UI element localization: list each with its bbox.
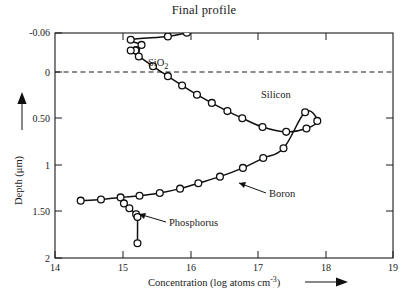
data-point	[98, 196, 105, 203]
y-tick-label-1: 0	[45, 67, 50, 78]
data-point	[239, 115, 246, 122]
data-point	[136, 192, 143, 199]
data-point	[194, 91, 201, 98]
svg-text:Concentration (log atoms cm-3): Concentration (log atoms cm-3)	[148, 275, 281, 289]
data-point	[134, 240, 141, 247]
data-point	[77, 197, 84, 204]
data-point	[127, 36, 134, 43]
data-point	[240, 164, 247, 171]
data-point	[127, 47, 134, 54]
data-point	[302, 109, 309, 116]
data-point	[156, 190, 163, 197]
x-tick-label-4: 18	[321, 262, 331, 273]
data-point	[177, 185, 184, 192]
x-axis-ticks-top	[123, 33, 326, 40]
data-point	[259, 124, 266, 131]
annotation-phosphorus: Phosphorus	[169, 217, 218, 228]
y-tick-label-3: 1	[45, 160, 50, 171]
data-point	[280, 145, 287, 152]
data-point	[164, 73, 171, 80]
series-line-1	[81, 50, 318, 200]
y-tick-label-2: 0.50	[33, 113, 51, 124]
y-axis-ticks-right	[386, 118, 393, 211]
data-point	[283, 128, 290, 135]
plot-frame	[55, 33, 393, 258]
y-axis-ticks	[55, 33, 62, 258]
x-tick-label-3: 17	[253, 262, 263, 273]
svg-text:Depth (μm): Depth (μm)	[13, 155, 25, 205]
y-axis-title: Depth (μm)	[13, 92, 27, 205]
data-point	[179, 82, 186, 89]
annotation-boron: Boron	[269, 188, 296, 199]
y-tick-label-4: 1.50	[33, 206, 51, 217]
data-point	[126, 205, 133, 212]
data-point	[195, 180, 202, 187]
x-tick-label-1: 15	[118, 262, 128, 273]
chart-figure: Final profile -0.06 0 0.50 1 1.50 2	[0, 0, 408, 296]
data-point	[224, 108, 231, 115]
data-curves	[81, 33, 318, 243]
phosphorus-leader	[139, 213, 166, 222]
x-axis-ticks	[55, 251, 393, 258]
plot-area: -0.06 0 0.50 1 1.50 2 14 15	[0, 0, 408, 296]
annotation-silicon: Silicon	[261, 89, 292, 100]
x-tick-label-5: 19	[388, 262, 398, 273]
data-point	[303, 125, 310, 132]
data-point	[135, 53, 142, 60]
y-tick-label-0: -0.06	[29, 27, 50, 38]
data-point	[260, 155, 267, 162]
x-tick-label-0: 14	[50, 262, 60, 273]
data-point	[164, 33, 171, 40]
data-point	[217, 173, 224, 180]
data-point	[208, 100, 215, 107]
data-markers	[77, 29, 320, 246]
x-axis-title: Concentration (log atoms cm-3)	[148, 275, 348, 289]
x-tick-label-2: 16	[186, 262, 196, 273]
data-point	[314, 118, 321, 125]
boron-leader	[239, 182, 266, 193]
